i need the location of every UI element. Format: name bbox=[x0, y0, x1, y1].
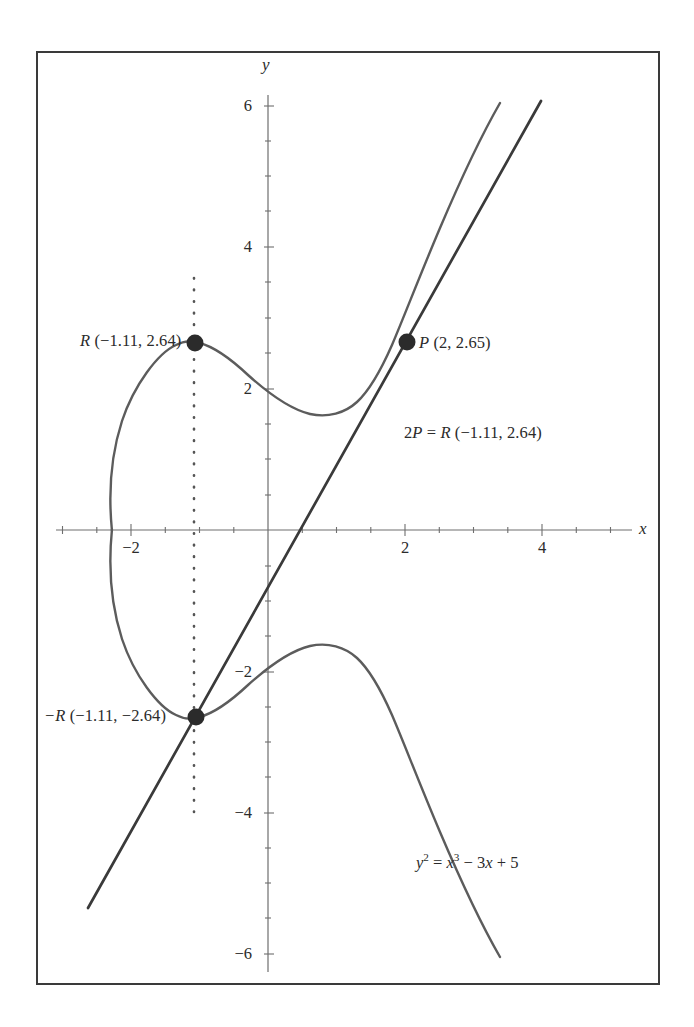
annotation-point-doubling: 2RP = R (−1.11, 2.64) bbox=[404, 423, 542, 443]
point-label-R: R (−1.11, 2.64) bbox=[80, 331, 181, 351]
doubling-equals: = bbox=[427, 423, 436, 442]
y-tick-label-minus4: −4 bbox=[215, 803, 252, 823]
equation-x-cubed-base: x bbox=[447, 853, 454, 872]
axes-group bbox=[56, 95, 632, 972]
point-marker-R[interactable] bbox=[187, 335, 204, 352]
doubling-coords: (−1.11, 2.64) bbox=[455, 423, 542, 442]
curve-equation-label: y2 = x3 − 3x + 5 bbox=[416, 851, 518, 873]
point-label-negative-R: −R (−1.11, −2.64) bbox=[44, 706, 166, 726]
equation-minus-three: − 3 bbox=[464, 853, 486, 872]
point-label-negative-R-symbol: −R bbox=[44, 706, 65, 725]
x-tick-label-minus2: −2 bbox=[111, 538, 151, 558]
point-marker-P[interactable] bbox=[399, 334, 416, 351]
tangent-line-at-P bbox=[88, 101, 541, 908]
doubling-P-symbol: P bbox=[412, 423, 422, 442]
y-tick-label-minus2: −2 bbox=[215, 662, 252, 682]
point-label-P: P (2, 2.65) bbox=[419, 333, 491, 353]
point-label-R-coords: (−1.11, 2.64) bbox=[94, 331, 181, 350]
equation-plus-five: + 5 bbox=[497, 853, 519, 872]
point-label-negative-R-coords: (−1.11, −2.64) bbox=[70, 706, 166, 725]
equation-x-linear: x bbox=[485, 853, 492, 872]
elliptic-curve-upper-branch bbox=[110, 103, 500, 530]
plot-canvas bbox=[0, 0, 694, 1027]
doubling-R-symbol: R bbox=[440, 423, 450, 442]
x-axis-label: x bbox=[639, 519, 647, 539]
elliptic-curve-figure: y x −2 2 4 6 4 2 −2 −4 −6 R (−1.11, 2.64… bbox=[0, 0, 694, 1027]
point-marker-negative-R[interactable] bbox=[188, 709, 205, 726]
y-tick-label-2: 2 bbox=[222, 379, 252, 399]
y-tick-label-4: 4 bbox=[222, 237, 252, 257]
x-tick-label-2: 2 bbox=[385, 538, 425, 558]
point-label-R-symbol: R bbox=[80, 331, 90, 350]
x-tick-label-4: 4 bbox=[522, 538, 562, 558]
elliptic-curve-lower-branch bbox=[110, 530, 500, 957]
equation-equals: = bbox=[433, 853, 442, 872]
point-label-P-coords: (2, 2.65) bbox=[433, 333, 490, 352]
point-label-P-symbol: P bbox=[419, 333, 429, 352]
y-axis-label: y bbox=[262, 55, 270, 75]
y-tick-label-minus6: −6 bbox=[215, 944, 252, 964]
y-tick-label-6: 6 bbox=[222, 96, 252, 116]
